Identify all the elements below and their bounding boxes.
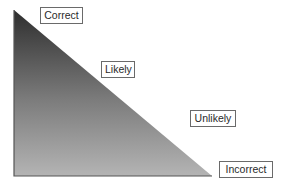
certainty-triangle-diagram: Correct Likely Unlikely Incorrect	[0, 0, 282, 187]
triangle-shape	[14, 10, 212, 176]
label-unlikely: Unlikely	[190, 110, 236, 127]
label-incorrect: Incorrect	[219, 161, 273, 178]
label-likely: Likely	[101, 61, 135, 78]
label-correct: Correct	[40, 7, 83, 24]
gradient-triangle	[0, 0, 282, 187]
